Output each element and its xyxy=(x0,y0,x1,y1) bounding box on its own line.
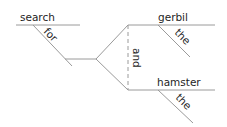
sentence-diagram: search for and gerbil the hamster the xyxy=(0,0,227,127)
object2-article-word: the xyxy=(174,91,195,112)
object2-word: hamster xyxy=(157,76,201,88)
preposition-word: for xyxy=(42,25,61,44)
fork-lower xyxy=(96,59,128,90)
conjunction-word: and xyxy=(131,48,143,68)
verb-word: search xyxy=(20,11,55,23)
fork-upper xyxy=(96,25,128,59)
object1-article-word: the xyxy=(173,26,194,47)
object1-word: gerbil xyxy=(158,11,188,23)
